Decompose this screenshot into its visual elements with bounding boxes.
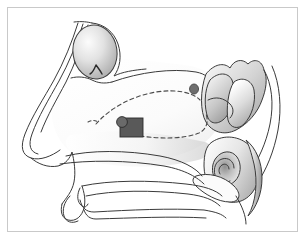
figure-frame <box>0 0 305 239</box>
sphenoid-ostium-dot <box>190 84 199 94</box>
figure-container: Sagittal cross-section of nasal cavity a… <box>0 0 305 239</box>
anatomy-illustration-svg <box>0 0 305 239</box>
device-marker-circle[interactable] <box>117 117 128 128</box>
